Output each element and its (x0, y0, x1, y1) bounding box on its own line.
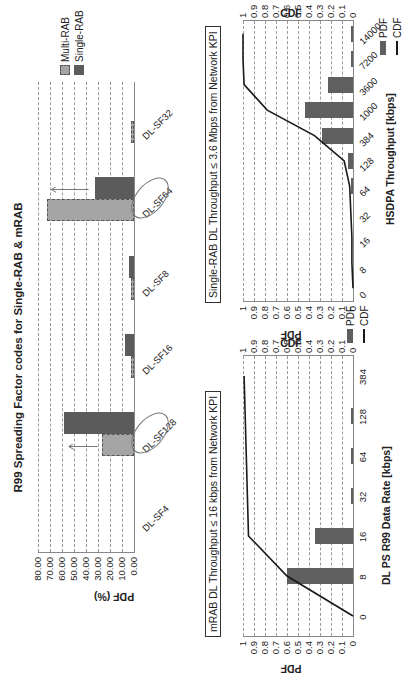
y2-tick-label: 0 (347, 0, 358, 18)
category-label: DL-SF16 (140, 342, 175, 377)
y2-tick-label: 0.6 (281, 0, 292, 18)
top-chart-title: R99 Spreading Factor codes for Single-RA… (12, 0, 24, 695)
top-chart-plot (38, 82, 135, 553)
x-tick-label: 1000 (357, 100, 380, 123)
top-chart-legend: Multi-RAB Single-RAB (58, 10, 86, 75)
right-chart-title: Single-RAB DL Throughput ≤ 3.6 Mbps from… (205, 26, 221, 303)
y-tick-label: 0.7 (270, 306, 281, 328)
y2-tick-label: 0.1 (336, 0, 347, 18)
left-chart-ylabel: PDF (271, 663, 311, 675)
legend-multi-rab: Multi-RAB (58, 10, 72, 75)
y-tick-label: 0.6 (281, 306, 292, 328)
y2-tick-label: 0.2 (325, 331, 336, 353)
y-tick-label: 0.3 (314, 641, 325, 663)
left-chart-xlabel: DL PS R99 Data Rate [kbps] (380, 446, 392, 585)
y2-tick-label: 0.6 (281, 331, 292, 353)
left-legend-cdf: CDF (357, 305, 371, 343)
x-tick-label: 384 (357, 369, 368, 385)
y-tick-label: 0.2 (325, 641, 336, 663)
y-tick-label: 80.00 (32, 557, 43, 593)
y-tick-label: 0.2 (325, 306, 336, 328)
category-label: DL-SF32 (140, 107, 175, 142)
y-tick-label: 10.00 (116, 557, 127, 593)
y2-tick-label: 0.4 (303, 0, 314, 18)
category-label: DL-SF8 (140, 268, 171, 299)
y2-tick-label: 0.9 (248, 0, 259, 18)
y-tick-label: 1 (237, 641, 248, 663)
x-tick-label: 384 (357, 129, 376, 148)
x-tick-label: 128 (357, 409, 368, 425)
y-tick-label: 0.4 (303, 641, 314, 663)
y-tick-label: 0.7 (270, 641, 281, 663)
right-chart-plot (243, 20, 354, 302)
y2-tick-label: 0.8 (259, 0, 270, 18)
y2-tick-label: 0.3 (314, 331, 325, 353)
y2-tick-label: 0.4 (303, 331, 314, 353)
y2-tick-label: 1 (237, 331, 248, 353)
right-chart-xlabel: HSDPA Throughput [kbps] (384, 93, 396, 225)
x-tick-label: 7200 (357, 49, 380, 72)
y-tick-label: 0.3 (314, 306, 325, 328)
x-tick-label: 64 (357, 452, 368, 463)
y2-tick-label: 0.7 (270, 331, 281, 353)
y2-tick-label: 1 (237, 0, 248, 18)
y2-tick-label: 0.2 (325, 0, 336, 18)
y2-tick-label: 0.8 (259, 331, 270, 353)
legend-single-rab: Single-RAB (72, 10, 86, 75)
cdf-line (243, 21, 353, 301)
y-tick-label: 0.6 (281, 641, 292, 663)
y-tick-label: 70.00 (44, 557, 55, 593)
x-tick-label: 32 (357, 209, 372, 224)
left-legend-cdf-swatch (363, 329, 365, 343)
right-chart-legend: PDFCDF (376, 17, 404, 55)
y2-tick-label: 0 (347, 331, 358, 353)
right-legend-cdf-label: CDF (392, 17, 403, 38)
y2-tick-label: 0.9 (248, 331, 259, 353)
x-tick-label: 8 (357, 264, 369, 276)
y-tick-label: 0.9 (248, 641, 259, 663)
legend-multi-label: Multi-RAB (60, 17, 71, 62)
y-tick-label: 0.5 (292, 306, 303, 328)
x-tick-label: 64 (357, 184, 372, 199)
left-legend-cdf-label: CDF (359, 305, 370, 326)
left-chart-plot (243, 355, 354, 637)
x-tick-label: 0 (357, 614, 368, 619)
y-tick-label: 0 (347, 641, 358, 663)
y-tick-label: 0.9 (248, 306, 259, 328)
y-tick-label: 50.00 (68, 557, 79, 593)
y-tick-label: 30.00 (92, 557, 103, 593)
y-tick-label: 0.5 (292, 641, 303, 663)
y2-tick-label: 0.5 (292, 331, 303, 353)
right-legend-cdf-swatch (396, 41, 398, 55)
y-tick-label: 60.00 (56, 557, 67, 593)
figure-canvas: R99 Spreading Factor codes for Single-RA… (0, 0, 411, 695)
y-tick-label: 0.8 (259, 641, 270, 663)
x-tick-label: 3600 (357, 75, 380, 98)
x-tick-label: 128 (357, 155, 376, 174)
y-tick-label: 0.1 (336, 641, 347, 663)
x-tick-label: 16 (357, 235, 372, 250)
category-label: DL-SF4 (140, 503, 171, 534)
legend-single-swatch (74, 65, 84, 75)
x-tick-label: 0 (357, 290, 369, 302)
y2-tick-label: 0.3 (314, 0, 325, 18)
x-tick-label: 32 (357, 492, 368, 503)
x-tick-label: 16 (357, 532, 368, 543)
right-legend-cdf: CDF (390, 17, 404, 55)
y-tick-label: 1 (237, 306, 248, 328)
y-tick-label: 0.00 (128, 557, 139, 593)
legend-single-label: Single-RAB (74, 10, 85, 62)
y-tick-label: 0.1 (336, 306, 347, 328)
cdf-line (243, 356, 353, 636)
y-tick-label: 20.00 (104, 557, 115, 593)
left-chart-title: mRAB DL Throughput ≤ 16 kbps from Networ… (205, 391, 221, 637)
legend-multi-swatch (60, 65, 70, 75)
y-tick-label: 0.8 (259, 306, 270, 328)
x-tick-label: 8 (357, 574, 368, 579)
change-arrows (38, 82, 134, 552)
y2-tick-label: 0.1 (336, 331, 347, 353)
y-tick-label: 0 (347, 306, 358, 328)
y2-tick-label: 0.5 (292, 0, 303, 18)
y2-tick-label: 0.7 (270, 0, 281, 18)
right-legend-pdf-swatch (380, 41, 386, 55)
